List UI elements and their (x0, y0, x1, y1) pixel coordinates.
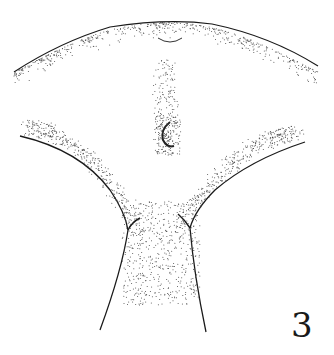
stipple-shading (14, 22, 319, 306)
right-inner-tick (178, 214, 190, 228)
figure-number-label: 3 (291, 308, 313, 342)
left-edge (20, 136, 128, 330)
top-notch (158, 38, 182, 42)
top-arc-outline (14, 22, 318, 72)
stipple-illustration (0, 0, 334, 355)
right-edge (190, 142, 305, 332)
